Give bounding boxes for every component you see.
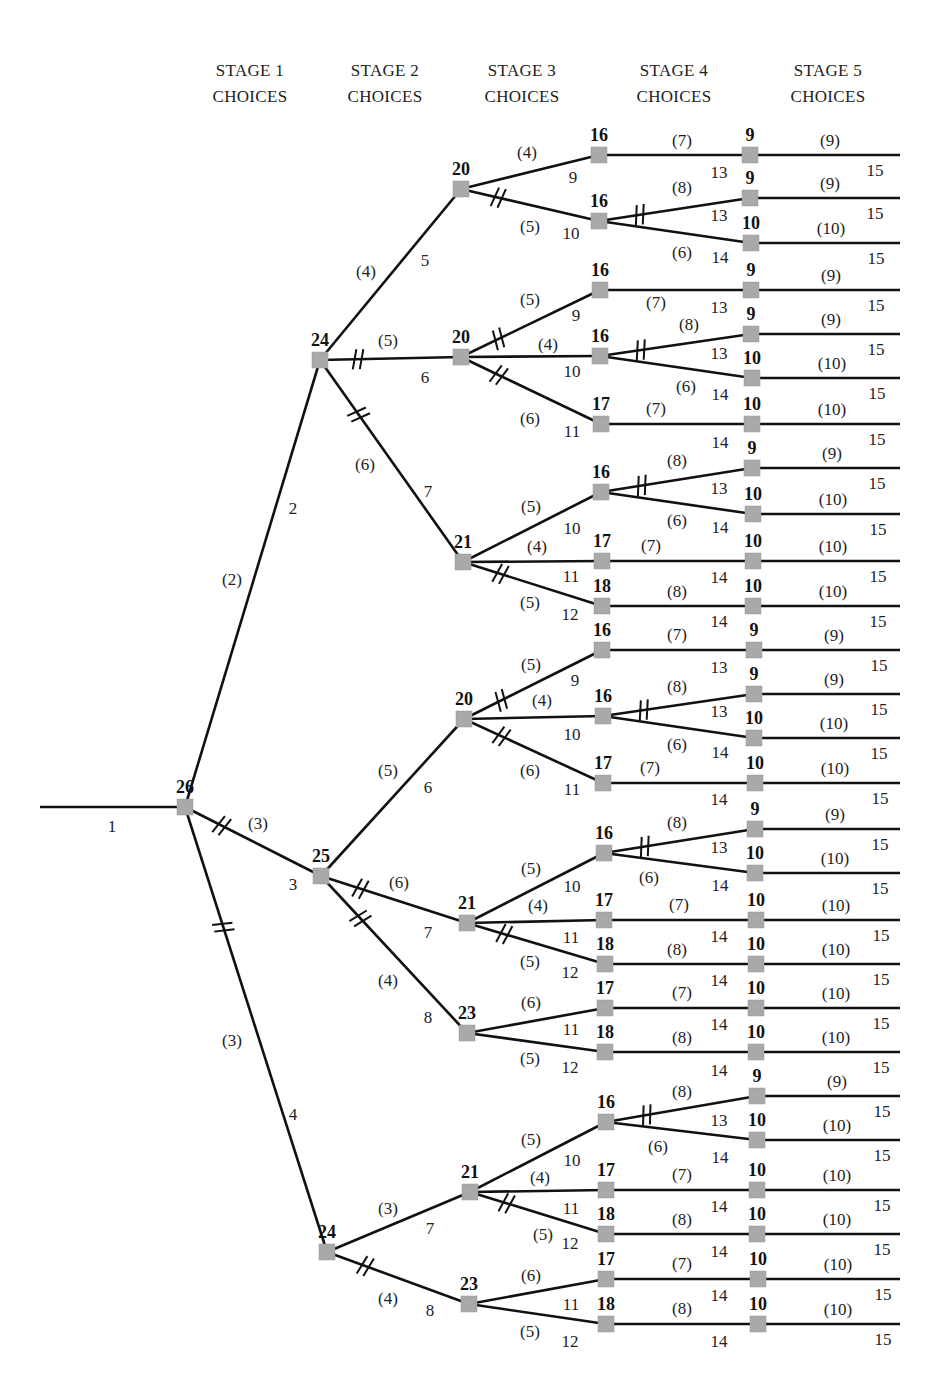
node-value-label: 17 <box>596 978 614 998</box>
edge-cost-label: (6) <box>667 511 687 530</box>
stage-number-label: 14 <box>711 1061 729 1080</box>
edge-cost-label: (9) <box>820 174 840 193</box>
node-value-label: 9 <box>753 1066 762 1086</box>
stage-header-2: STAGE 2 <box>351 61 419 80</box>
edge-cost-label: (5) <box>520 217 540 236</box>
node-value-label: 9 <box>746 168 755 188</box>
stage-number-label: 11 <box>563 928 579 947</box>
node-value-label: 18 <box>597 1204 615 1224</box>
edge-cost-label: (6) <box>520 761 540 780</box>
edge-cost-label: (4) <box>538 335 558 354</box>
stage-number-label: 12 <box>562 605 579 624</box>
stage-number-label: 12 <box>562 1234 579 1253</box>
stage-header-choices-1: CHOICES <box>213 87 288 106</box>
edge-cost-label: (4) <box>532 691 552 710</box>
stage-number-label: 7 <box>426 1219 435 1238</box>
node-value-label: 10 <box>747 978 765 998</box>
edge-cost-label: (8) <box>679 315 699 334</box>
node-value-label: 20 <box>455 689 473 709</box>
edge-labels: 1(2)2(3)3(3)4(4)5(5)6(6)7(5)6(6)7(4)8(3)… <box>108 131 892 1351</box>
decision-node <box>594 553 610 569</box>
edge-cost-label: (10) <box>822 896 850 915</box>
edge-cost-label: (7) <box>646 399 666 418</box>
decision-node <box>742 190 758 206</box>
stage-number-label: 14 <box>712 876 730 895</box>
stage-number-label: 11 <box>563 1020 579 1039</box>
stage-number-label: 15 <box>871 744 888 763</box>
stage-number-label: 14 <box>712 248 730 267</box>
edge-cost-label: (5) <box>520 1049 540 1068</box>
node-value-label: 10 <box>747 890 765 910</box>
edge-cost-label: (10) <box>823 1166 851 1185</box>
edge-cost-label: (5) <box>533 1225 553 1244</box>
path-blocked-mark <box>212 923 232 925</box>
stage-number-label: 15 <box>874 1240 891 1259</box>
edge-cost-label: (6) <box>667 735 687 754</box>
tree-edge <box>327 1252 469 1304</box>
edge-cost-label: (7) <box>672 983 692 1002</box>
edge-cost-label: (10) <box>819 582 847 601</box>
decision-tree-diagram: STAGE 1CHOICESSTAGE 2CHOICESSTAGE 3CHOIC… <box>0 0 951 1382</box>
stage-number-label: 6 <box>421 368 430 387</box>
node-value-label: 10 <box>746 843 764 863</box>
tree-edge <box>463 561 602 562</box>
path-blocked-mark <box>347 408 366 416</box>
edge-cost-label: (5) <box>521 655 541 674</box>
node-value-label: 16 <box>595 823 613 843</box>
stage-header-1: STAGE 1 <box>216 61 284 80</box>
node-value-label: 10 <box>745 708 763 728</box>
decision-node <box>744 416 760 432</box>
edge-cost-label: (7) <box>667 625 687 644</box>
edge-cost-label: (10) <box>819 490 847 509</box>
edge-cost-label: (7) <box>672 1254 692 1273</box>
edge-cost-label: (5) <box>378 331 398 350</box>
decision-node <box>749 1226 765 1242</box>
stage-number-label: 15 <box>873 926 890 945</box>
node-value-label: 16 <box>590 191 608 211</box>
decision-node <box>177 799 193 815</box>
edge-cost-label: (9) <box>821 310 841 329</box>
path-blocked-mark <box>643 1105 644 1125</box>
path-blocked-mark <box>644 339 645 359</box>
stage-number-label: 15 <box>874 1196 891 1215</box>
stage-number-label: 15 <box>873 1058 890 1077</box>
stage-number-label: 14 <box>712 518 730 537</box>
stage-number-label: 13 <box>711 344 728 363</box>
decision-node <box>749 1182 765 1198</box>
stage-number-label: 14 <box>711 568 729 587</box>
path-blocked-mark <box>637 340 638 360</box>
stage-number-label: 15 <box>868 296 885 315</box>
decision-node <box>591 147 607 163</box>
stage-number-label: 13 <box>711 479 728 498</box>
edge-cost-label: (8) <box>672 1299 692 1318</box>
stage-number-label: 13 <box>711 206 728 225</box>
decision-node <box>459 1025 475 1041</box>
stage-header-3: STAGE 3 <box>488 61 556 80</box>
stage-number-label: 14 <box>711 1015 729 1034</box>
edge-cost-label: (2) <box>222 570 242 589</box>
stage-number-label: 8 <box>426 1301 435 1320</box>
stage-number-label: 15 <box>873 1014 890 1033</box>
edge-cost-label: (5) <box>521 1130 541 1149</box>
path-blocked-mark <box>645 475 646 495</box>
node-value-label: 10 <box>748 1204 766 1224</box>
edge-cost-label: (5) <box>520 593 540 612</box>
stage-number-label: 11 <box>563 1295 579 1314</box>
edge-cost-label: (10) <box>821 759 849 778</box>
decision-node <box>596 845 612 861</box>
edge-cost-label: (10) <box>822 984 850 1003</box>
path-blocked-mark <box>643 204 644 224</box>
tree-edge <box>464 716 603 719</box>
edge-cost-label: (5) <box>520 290 540 309</box>
edge-cost-label: (4) <box>378 1289 398 1308</box>
path-blocked-mark <box>640 700 641 720</box>
tree-edge <box>600 356 752 378</box>
stage-number-label: 14 <box>711 790 729 809</box>
stage-number-label: 15 <box>870 612 887 631</box>
edge-cost-label: (10) <box>820 714 848 733</box>
path-blocked-mark <box>647 699 648 719</box>
stage-header-choices-5: CHOICES <box>791 87 866 106</box>
stage-header-choices-3: CHOICES <box>485 87 560 106</box>
stage-number-label: 15 <box>871 700 888 719</box>
tree-edge <box>320 360 463 562</box>
